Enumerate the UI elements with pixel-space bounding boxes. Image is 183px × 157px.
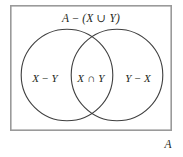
label-y-minus-x: Y − X: [125, 73, 151, 84]
label-x-minus-y: X − Y: [32, 73, 58, 84]
label-universal-set: A: [164, 139, 171, 151]
label-x-intersect-y: X ∩ Y: [77, 73, 104, 84]
venn-diagram-figure: A − (X ∪ Y) X − Y X ∩ Y Y − X A: [0, 0, 183, 157]
label-complement-of-union: A − (X ∪ Y): [62, 13, 120, 25]
